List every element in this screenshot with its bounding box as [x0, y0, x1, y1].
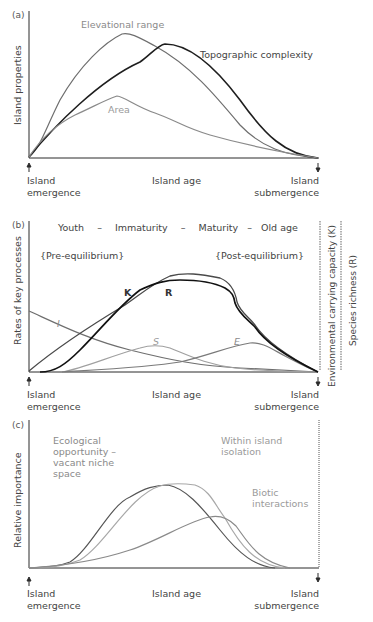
- panel-a-x-right-2: submergence: [254, 187, 319, 198]
- stage-old-age: Old age: [261, 222, 298, 233]
- panel-a-x-center: Island age: [152, 175, 201, 186]
- i-curve-label: I: [57, 318, 60, 329]
- ecological-opportunity-label-1: Ecological: [53, 435, 101, 446]
- species-richness-curve: [40, 280, 318, 372]
- panel-a-arrows: [27, 163, 320, 172]
- panel-b-x-left-2: emergence: [27, 401, 81, 412]
- panel-c-tag: (c): [12, 420, 24, 430]
- panel-c-x-left-2: emergence: [27, 600, 81, 611]
- stage-maturity: Maturity: [199, 222, 239, 233]
- panel-b-ylabel: Rates of key processes: [12, 236, 23, 345]
- panel-a-x-left-2: emergence: [27, 187, 81, 198]
- panel-c-ylabel: Relative importance: [12, 452, 23, 548]
- ecological-opportunity-curve: [29, 485, 275, 568]
- ecological-opportunity-label-4: space: [53, 468, 81, 479]
- stage-dash-1: –: [97, 222, 102, 233]
- topographic-complexity-curve: [29, 44, 318, 158]
- r-curve-label: R: [165, 287, 172, 298]
- panel-b-x-right-2: submergence: [254, 401, 319, 412]
- e-curve-label: E: [234, 336, 240, 347]
- panel-c-x-right-2: submergence: [254, 600, 319, 611]
- panel-b-x-left-1: Island: [27, 389, 55, 400]
- panel-b-x-center: Island age: [152, 389, 201, 400]
- stage-dash-3: –: [247, 222, 252, 233]
- area-label: Area: [108, 104, 130, 115]
- panel-c-x-center: Island age: [152, 588, 201, 599]
- panel-a-ylabel: Island properties: [12, 45, 23, 125]
- panel-b-x-right-1: Island: [291, 389, 319, 400]
- biotic-interactions-label-1: Biotic: [252, 487, 279, 498]
- panel-a-x-right-1: Island: [291, 175, 319, 186]
- panel-a-tag: (a): [12, 10, 25, 20]
- panel-b-tag: (b): [12, 220, 25, 230]
- panel-a-axes: [29, 11, 319, 158]
- stage-immaturity: Immaturity: [115, 222, 168, 233]
- ecological-opportunity-label-2: opportunity –: [53, 446, 116, 457]
- stage-sequence: Youth – Immaturity – Maturity – Old age: [58, 222, 298, 233]
- figure-plots: [0, 0, 373, 622]
- within-island-isolation-label-2: isolation: [221, 446, 261, 457]
- topographic-complexity-label: Topographic complexity: [200, 49, 313, 60]
- panel-c-x-left-1: Island: [27, 588, 55, 599]
- biotic-interactions-label-2: interactions: [252, 498, 308, 509]
- within-island-isolation-label-1: Within island: [221, 435, 282, 446]
- panel-a-x-left-1: Island: [27, 175, 55, 186]
- species-richness-label: Species richness (R): [348, 255, 358, 346]
- island-ontogeny-figure: (a) Island properties Elevational range …: [0, 0, 373, 622]
- post-equilibrium-label: {Post-equilibrium}: [215, 250, 304, 261]
- pre-equilibrium-label: {Pre-equilibrium}: [40, 250, 124, 261]
- environmental-carrying-capacity-label: Environmental carrying capacity (K): [327, 225, 337, 387]
- stage-youth: Youth: [58, 222, 84, 233]
- k-curve-label: K: [124, 287, 131, 298]
- ecological-opportunity-label-3: vacant niche: [53, 457, 114, 468]
- panel-c-arrows: [27, 573, 320, 586]
- within-island-isolation-curve: [29, 484, 285, 568]
- panel-b-arrows: [27, 377, 320, 386]
- extinction-curve: [62, 343, 318, 372]
- panel-c-x-right-1: Island: [291, 588, 319, 599]
- s-curve-label: S: [153, 336, 159, 347]
- stage-dash-2: –: [181, 222, 186, 233]
- elevational-range-label: Elevational range: [81, 19, 164, 30]
